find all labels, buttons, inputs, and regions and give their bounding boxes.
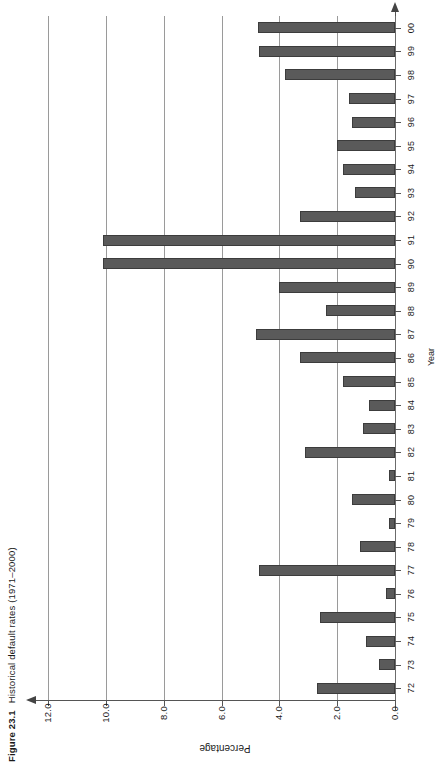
year-tick — [395, 358, 401, 359]
bar-row — [0, 16, 395, 40]
year-label-93: 93 — [404, 180, 418, 206]
year-tick — [395, 500, 401, 501]
bar-row — [0, 653, 395, 677]
bar-91[interactable] — [103, 235, 395, 246]
year-tick — [395, 594, 401, 595]
bar-99[interactable] — [259, 46, 395, 57]
year-label-99: 99 — [404, 38, 418, 64]
bar-row — [0, 87, 395, 111]
bar-77[interactable] — [259, 565, 395, 576]
year-tick — [395, 51, 401, 52]
percentage-tick-label: 4.0 — [272, 696, 286, 730]
year-tick — [395, 570, 401, 571]
bar-74[interactable] — [366, 636, 395, 647]
bar-row — [0, 370, 395, 394]
bar-75[interactable] — [320, 612, 395, 623]
year-tick — [395, 405, 401, 406]
bar-82[interactable] — [305, 447, 395, 458]
year-label-90: 90 — [404, 251, 418, 277]
year-tick — [395, 382, 401, 383]
year-label-80: 80 — [404, 487, 418, 513]
bar-92[interactable] — [300, 211, 395, 222]
bar-85[interactable] — [343, 376, 395, 387]
bar-94[interactable] — [343, 164, 395, 175]
year-tick — [395, 641, 401, 642]
bar-row — [0, 464, 395, 488]
year-tick — [395, 216, 401, 217]
bar-row — [0, 40, 395, 64]
year-tick — [395, 429, 401, 430]
bar-row — [0, 441, 395, 465]
year-axis-arrow-icon — [391, 2, 399, 12]
bar-row — [0, 158, 395, 182]
bar-89[interactable] — [279, 282, 395, 293]
bar-row — [0, 606, 395, 630]
bar-row — [0, 629, 395, 653]
bar-84[interactable] — [369, 400, 395, 411]
year-label-87: 87 — [404, 321, 418, 347]
year-label-86: 86 — [404, 345, 418, 371]
year-tick — [395, 99, 401, 100]
year-label-77: 77 — [404, 557, 418, 583]
bar-98[interactable] — [285, 69, 395, 80]
year-label-75: 75 — [404, 604, 418, 630]
year-label-81: 81 — [404, 463, 418, 489]
year-tick — [395, 28, 401, 29]
bar-97[interactable] — [349, 93, 395, 104]
bar-83[interactable] — [363, 423, 395, 434]
bar-row — [0, 205, 395, 229]
percentage-tick-label: 0.0 — [388, 696, 402, 730]
bar-row — [0, 181, 395, 205]
percentage-tick-label: 6.0 — [215, 696, 229, 730]
bar-72[interactable] — [317, 683, 395, 694]
year-label-97: 97 — [404, 86, 418, 112]
bar-88[interactable] — [326, 305, 395, 316]
bar-row — [0, 63, 395, 87]
percentage-tick-label: 8.0 — [157, 696, 171, 730]
year-tick — [395, 665, 401, 666]
year-tick — [395, 287, 401, 288]
year-tick — [395, 311, 401, 312]
year-tick — [395, 688, 401, 689]
year-label-74: 74 — [404, 628, 418, 654]
bar-80[interactable] — [352, 494, 395, 505]
bar-96[interactable] — [352, 117, 395, 128]
bar-90[interactable] — [103, 258, 395, 269]
bar-00[interactable] — [258, 22, 395, 33]
bar-78[interactable] — [360, 541, 395, 552]
year-axis-title: Year — [424, 337, 438, 377]
year-tick — [395, 146, 401, 147]
bar-row — [0, 417, 395, 441]
year-tick — [395, 75, 401, 76]
year-label-78: 78 — [404, 534, 418, 560]
year-label-82: 82 — [404, 439, 418, 465]
year-label-79: 79 — [404, 510, 418, 536]
bar-row — [0, 558, 395, 582]
year-tick — [395, 122, 401, 123]
year-label-92: 92 — [404, 203, 418, 229]
bar-row — [0, 323, 395, 347]
bar-86[interactable] — [300, 352, 395, 363]
bar-95[interactable] — [337, 140, 395, 151]
percentage-tick-label: 10.0 — [99, 696, 113, 730]
year-label-88: 88 — [404, 298, 418, 324]
bar-row — [0, 252, 395, 276]
year-label-83: 83 — [404, 416, 418, 442]
bar-row — [0, 393, 395, 417]
bar-73[interactable] — [379, 659, 395, 670]
bar-row — [0, 582, 395, 606]
bar-row — [0, 228, 395, 252]
year-label-76: 76 — [404, 581, 418, 607]
year-tick — [395, 334, 401, 335]
percentage-tick-label: 2.0 — [330, 696, 344, 730]
bar-row — [0, 676, 395, 700]
bar-76[interactable] — [386, 588, 395, 599]
bar-chart: Year Percentage 0.02.04.06.08.010.012.07… — [0, 0, 441, 770]
year-label-00: 00 — [404, 15, 418, 41]
bar-row — [0, 299, 395, 323]
year-label-98: 98 — [404, 62, 418, 88]
bar-87[interactable] — [256, 329, 395, 340]
bar-93[interactable] — [355, 187, 395, 198]
year-label-84: 84 — [404, 392, 418, 418]
year-tick — [395, 523, 401, 524]
